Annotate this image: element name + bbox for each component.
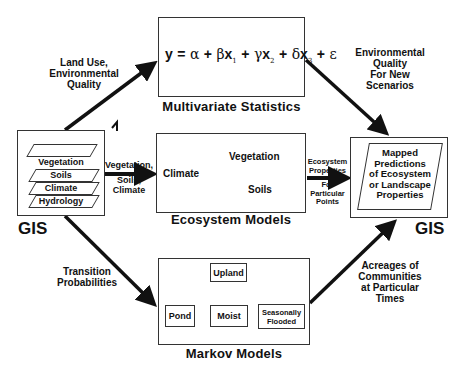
markov-node-seasonally-flooded: Seasonally Flooded	[258, 304, 305, 329]
arrow-gis-to-markov	[65, 216, 152, 302]
ecosystem-node-soils: Soils	[248, 184, 272, 195]
multivariate-box: y = α + βx1 + γx2 + δx3 + ε	[158, 17, 305, 97]
ecosystem-node-vegetation: Vegetation	[229, 151, 280, 162]
label-acreages-communities: Acreages of Communities at Particular Ti…	[350, 260, 430, 304]
markov-node-upland: Upland	[210, 263, 247, 282]
right-gis-box: Mapped Predictions of Ecosystem or Lands…	[350, 137, 448, 218]
layer-vegetation-label: Vegetation	[29, 156, 93, 169]
label-land-use: Land Use, Environmental Quality	[44, 57, 124, 90]
layer-climate-label: Climate	[29, 182, 93, 195]
label-vegetation-soils-climate: Vegetation, Soils, Climate	[104, 160, 154, 195]
left-gis-box: Vegetation Soils Climate Hydrology	[17, 130, 105, 216]
markov-node-moist: Moist	[210, 305, 248, 327]
layer-hydrology-label: Hydrology	[29, 195, 93, 208]
ecosystem-caption: Ecosystem Models	[156, 212, 306, 227]
label-transition-probabilities: Transition Probabilities	[52, 266, 122, 288]
markov-node-pond: Pond	[165, 305, 195, 327]
regression-equation: y = α + βx1 + γx2 + δx3 + ε	[165, 46, 337, 65]
right-gis-label: GIS	[415, 219, 444, 239]
markov-caption: Markov Models	[158, 346, 310, 361]
multivariate-caption: Multivariate Statistics	[158, 99, 305, 114]
ecosystem-node-climate: Climate	[163, 168, 199, 179]
layer-soils-label: Soils	[29, 169, 93, 182]
label-environmental-quality-scenarios: Environmental Quality For New Scenarios	[345, 47, 435, 91]
mapped-predictions-text: Mapped Predictions of Ecosystem or Lands…	[351, 148, 449, 201]
label-ecosystem-properties: Ecosystem Properties For Particular Poin…	[305, 158, 350, 207]
left-gis-label: GIS	[18, 219, 47, 239]
